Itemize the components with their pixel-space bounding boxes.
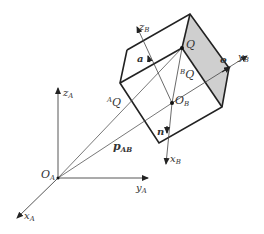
point-OB bbox=[170, 101, 174, 105]
label-zA: zA bbox=[62, 87, 73, 100]
vector-AQ-line bbox=[58, 48, 182, 178]
coordinate-transform-diagram: zA yA xA OA zB yB xB OB Q BQ AQ pAB a o … bbox=[0, 0, 264, 234]
label-xA: xA bbox=[24, 210, 35, 223]
point-OA bbox=[57, 177, 60, 180]
label-Q: Q bbox=[186, 38, 195, 51]
label-yA: yA bbox=[135, 182, 147, 195]
label-yB: yB bbox=[237, 51, 249, 64]
label-AQ: AQ bbox=[106, 96, 121, 109]
label-pAB: pAB bbox=[113, 140, 132, 154]
a-vector-arrow bbox=[148, 56, 150, 62]
label-o: o bbox=[220, 54, 227, 65]
label-OA: OA bbox=[41, 168, 55, 182]
label-OB: OB bbox=[175, 94, 189, 108]
label-n: n bbox=[157, 126, 164, 137]
label-xB: xB bbox=[170, 153, 181, 166]
label-a: a bbox=[137, 53, 143, 64]
diagram-canvas: zA yA xA OA zB yB xB OB Q BQ AQ pAB a o … bbox=[0, 0, 264, 234]
point-Q bbox=[180, 46, 184, 50]
label-BQ: BQ bbox=[179, 68, 194, 81]
z-axis-B bbox=[137, 27, 172, 103]
